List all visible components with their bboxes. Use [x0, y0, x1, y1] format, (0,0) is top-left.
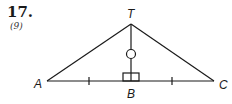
label-B: B [127, 87, 135, 101]
altitude-circle-mark [127, 50, 136, 59]
label-A: A [33, 77, 42, 91]
label-T: T [127, 7, 136, 21]
side-TC [131, 24, 214, 81]
side-TA [47, 24, 131, 81]
label-C: C [219, 78, 228, 92]
triangle-diagram: T A B C [0, 0, 232, 104]
